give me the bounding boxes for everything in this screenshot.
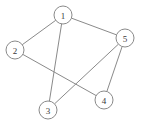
- graph-edge-1-5: [71, 18, 116, 35]
- graph-edge-1-2: [22, 20, 55, 44]
- graph-node-2[interactable]: 2: [6, 41, 24, 59]
- node-label-5: 5: [123, 34, 128, 44]
- node-layer: 12345: [6, 6, 134, 119]
- node-label-3: 3: [46, 106, 51, 116]
- node-label-2: 2: [13, 46, 18, 56]
- graph-diagram: 12345: [0, 0, 143, 127]
- graph-node-1[interactable]: 1: [54, 6, 72, 24]
- graph-edge-1-3: [49, 24, 61, 101]
- graph-canvas: 12345: [0, 0, 143, 127]
- node-label-4: 4: [102, 96, 107, 106]
- graph-node-5[interactable]: 5: [116, 29, 134, 47]
- graph-node-4[interactable]: 4: [95, 91, 113, 109]
- graph-node-3[interactable]: 3: [39, 101, 57, 119]
- node-label-1: 1: [61, 11, 66, 21]
- edge-layer: [22, 18, 122, 104]
